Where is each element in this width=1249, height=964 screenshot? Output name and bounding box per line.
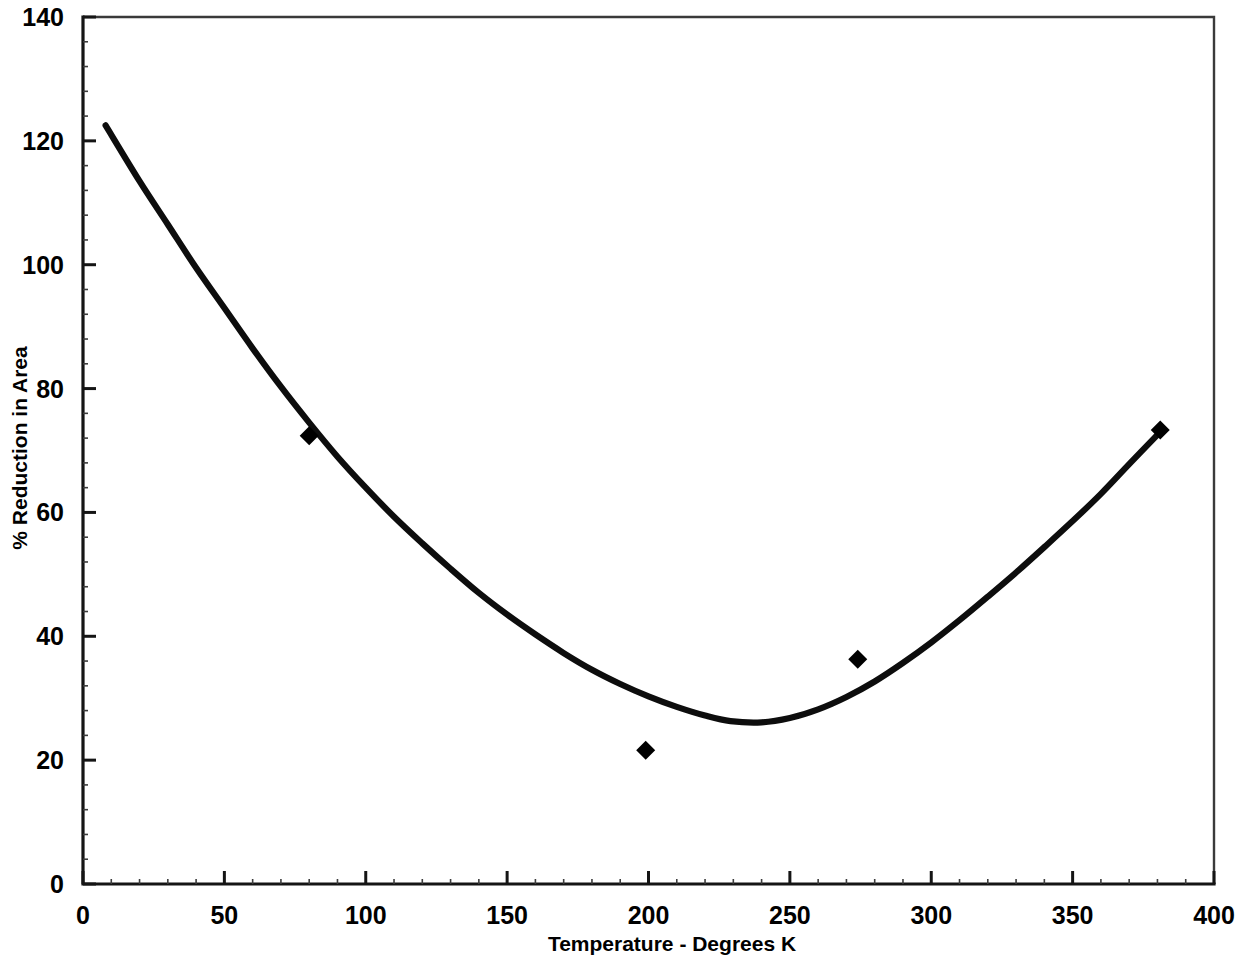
x-tick-label-400: 400 [1193,901,1235,929]
y-tick-label-60: 60 [36,498,64,526]
y-tick-label-120: 120 [22,127,64,155]
x-tick-label-100: 100 [345,901,387,929]
data-curve [106,125,1161,722]
y-tick-label-140: 140 [22,3,64,31]
x-tick-label-150: 150 [486,901,528,929]
x-tick-label-0: 0 [76,901,90,929]
x-tick-label-250: 250 [769,901,811,929]
y-tick-label-40: 40 [36,622,64,650]
y-tick-label-20: 20 [36,746,64,774]
y-axis-ticks [83,17,96,884]
x-tick-label-300: 300 [910,901,952,929]
y-tick-label-80: 80 [36,375,64,403]
x-axis-ticks [83,871,1214,884]
chart-canvas: 050100150200250300350400 020406080100120… [0,0,1249,964]
data-point-marker [848,650,867,669]
x-axis-title: Temperature - Degrees K [548,932,796,955]
y-tick-label-0: 0 [50,870,64,898]
chart-figure: 050100150200250300350400 020406080100120… [0,0,1249,964]
x-axis-tick-labels: 050100150200250300350400 [76,901,1235,929]
data-point-marker [636,741,655,760]
y-axis-title: % Reduction in Area [8,346,31,550]
x-tick-label-350: 350 [1052,901,1094,929]
data-series-layer [106,125,1170,759]
x-tick-label-50: 50 [210,901,238,929]
y-tick-label-100: 100 [22,251,64,279]
x-tick-label-200: 200 [628,901,670,929]
